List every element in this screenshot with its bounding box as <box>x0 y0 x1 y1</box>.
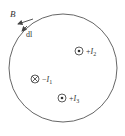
current-i2: +I2 <box>75 47 96 57</box>
svg-text:+I3: +I3 <box>69 94 79 104</box>
svg-text:+I2: +I2 <box>86 47 96 57</box>
current-i1: −I1 <box>31 75 52 85</box>
current-i3: +I3 <box>58 94 79 104</box>
b-field-label: B <box>10 9 16 19</box>
amperian-loop-diagram: B dl +I2 −I1 +I3 <box>0 0 125 136</box>
b-field-arrow <box>18 19 33 24</box>
svg-text:−I1: −I1 <box>42 75 52 85</box>
dl-label: dl <box>26 30 33 39</box>
